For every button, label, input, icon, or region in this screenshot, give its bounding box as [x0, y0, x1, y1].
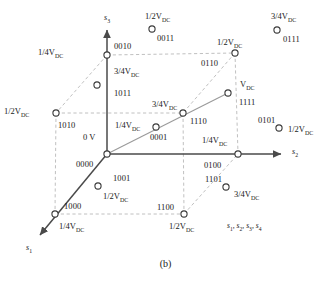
figure-canvas: 0 V00001/4VDC00101/2VDC10101/2VDC01103/4… [0, 0, 331, 282]
node-marker-0011[interactable] [149, 26, 155, 32]
node-code-0111: 0111 [283, 35, 300, 44]
node-voltage-0100: 1/4VDC [202, 136, 227, 147]
node-code-0011: 0011 [157, 34, 174, 43]
node-code-1100: 1100 [157, 203, 174, 212]
node-voltage-0101: 1/2VDC [288, 125, 313, 136]
node-code-1000: 1000 [64, 202, 81, 211]
node-voltage-1110: 3/4VDC [152, 100, 177, 111]
node-marker-0101[interactable] [276, 125, 282, 131]
node-marker-0100[interactable] [235, 151, 241, 157]
axis-label-s2: s2 [292, 148, 298, 158]
node-voltage-1010: 1/2VDC [4, 107, 29, 118]
node-marker-1011[interactable] [94, 82, 100, 88]
node-marker-1001[interactable] [95, 183, 101, 189]
node-marker-0000[interactable] [104, 151, 110, 157]
node-voltage-1100: 1/2VDC [169, 222, 194, 233]
node-marker-0110[interactable] [232, 50, 238, 56]
figure-caption: (b) [0, 258, 331, 269]
node-voltage-1011: 3/4VDC [114, 67, 139, 78]
node-code-1011: 1011 [114, 89, 131, 98]
node-code-0110: 0110 [201, 59, 218, 68]
node-code-0100: 0100 [204, 161, 221, 170]
node-voltage-1000: 1/4VDC [59, 222, 84, 233]
node-code-0001: 0001 [150, 133, 167, 142]
node-marker-1100[interactable] [181, 211, 187, 217]
node-marker-1101[interactable] [223, 184, 229, 190]
node-voltage-1101: 3/4VDC [234, 190, 259, 201]
node-marker-1110[interactable] [180, 110, 186, 116]
node-voltage-1111: VDC [240, 80, 254, 91]
axis-label-s1: s1 [26, 244, 32, 254]
node-marker-1010[interactable] [53, 110, 59, 116]
node-code-0000: 0000 [76, 160, 93, 169]
node-marker-0111[interactable] [274, 27, 280, 33]
axis-label-s3: s3 [104, 14, 110, 24]
node-code-0101: 0101 [258, 116, 275, 125]
node-marker-1000[interactable] [52, 211, 58, 217]
node-code-1001: 1001 [113, 174, 130, 183]
switch-vector-legend: s1, s2, s3, s4 [227, 222, 261, 232]
node-code-1111: 1111 [239, 98, 255, 107]
node-voltage-0011: 1/2VDC [145, 12, 170, 23]
node-code-1101: 1101 [205, 175, 222, 184]
node-voltage-0000: 0 V [83, 133, 95, 142]
node-voltage-0111: 3/4VDC [271, 12, 296, 23]
node-voltage-0110: 1/2VDC [217, 38, 242, 49]
node-marker-0010[interactable] [104, 52, 110, 58]
node-marker-1111[interactable] [225, 90, 231, 96]
node-voltage-1001: 1/2VDC [103, 192, 128, 203]
node-marker-0001[interactable] [153, 124, 159, 130]
node-voltage-0010: 1/4VDC [38, 48, 63, 59]
node-code-1010: 1010 [58, 121, 75, 130]
node-voltage-0001: 1/4VDC [115, 121, 140, 132]
node-code-1110: 1110 [190, 117, 207, 126]
node-code-0010: 0010 [114, 42, 131, 51]
